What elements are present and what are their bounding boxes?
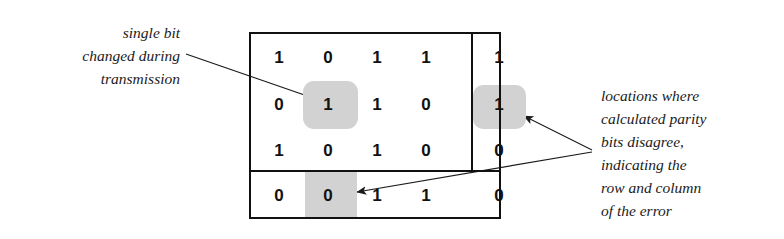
data-bit-r0c3: 1 [411,48,441,68]
leader-line-row-parity [524,116,592,150]
caption-right-line-5: row and column [601,176,706,199]
caption-right-line-4: indicating the [601,153,706,176]
data-bit-r2c1: 0 [313,141,343,161]
data-bit-r0c0: 1 [264,48,294,68]
row-parity-bit-r2: 0 [484,141,514,161]
caption-right-line-1: locations where [601,84,706,107]
caption-right-line-2: calculated parity [601,107,706,130]
caption-left-line-2: changed during [82,44,180,67]
caption-single-bit-changed: single bit changed during transmission [82,21,180,90]
data-bit-r2c3: 0 [411,141,441,161]
parity-error-detection-figure: 1 0 1 1 1 0 1 1 0 1 1 0 1 0 0 0 0 1 1 0 … [0,0,784,239]
caption-right-line-3: bits disagree, [601,130,706,153]
caption-left-line-3: transmission [82,67,180,90]
column-parity-bit-c1: 0 [313,186,343,206]
corner-parity-bit: 0 [484,186,514,206]
column-parity-bit-c2: 1 [362,186,392,206]
column-parity-row-divider [249,170,501,172]
data-bit-r2c2: 1 [362,141,392,161]
column-parity-bit-c3: 1 [411,186,441,206]
data-bit-r1c0: 0 [264,95,294,115]
row-parity-bit-r0: 1 [484,48,514,68]
caption-parity-disagreement: locations where calculated parity bits d… [601,84,706,222]
data-bit-r2c0: 1 [264,141,294,161]
column-parity-bit-c0: 0 [264,186,294,206]
caption-right-line-6: of the error [601,199,706,222]
caption-left-line-1: single bit [82,21,180,44]
row-parity-column-divider [471,32,473,172]
data-bit-r1c1: 1 [313,95,343,115]
data-bit-r0c2: 1 [362,48,392,68]
row-parity-bit-r1: 1 [484,95,514,115]
data-bit-r1c3: 0 [411,95,441,115]
data-bit-r0c1: 0 [313,48,343,68]
data-bit-r1c2: 1 [362,95,392,115]
